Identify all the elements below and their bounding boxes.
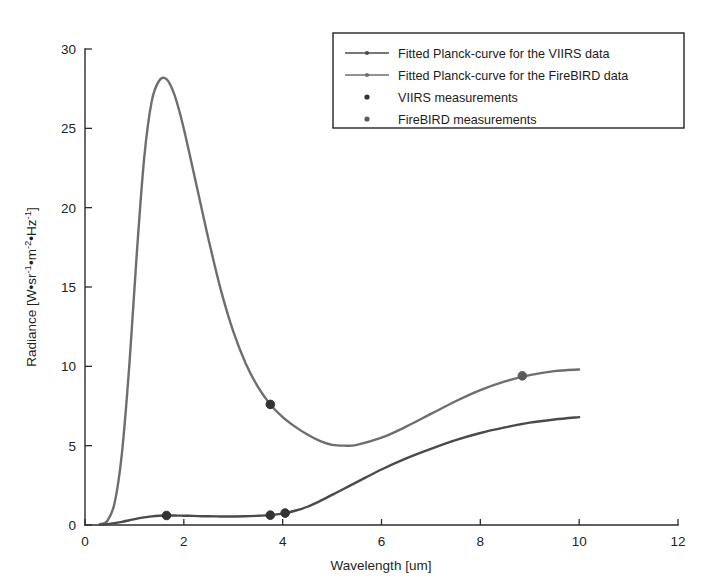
y-tick-label-5: 5 [68,439,76,454]
legend-line-dot-0 [365,51,369,55]
figure-container: 024681012 051015202530 Wavelength [um] R… [0,0,716,588]
y-title-exp3: -1 [22,211,33,219]
y-tick-label-15: 15 [61,280,76,295]
y-axis-title: Radiance [W•sr-1•m-2•Hz-1] [22,207,39,367]
y-axis-ticks: 051015202530 [61,42,92,533]
y-title-suffix: ] [24,207,39,211]
x-tick-label-6: 6 [378,534,386,549]
x-tick-label-12: 12 [670,534,685,549]
measurement-point-0 [266,400,275,409]
radiance-wavelength-chart: 024681012 051015202530 Wavelength [um] R… [0,0,716,588]
x-tick-label-8: 8 [477,534,485,549]
y-title-exp1: -1 [22,265,33,273]
legend-dot-swatch-2 [364,94,369,99]
y-title-prefix: Radiance [W•sr [24,273,39,367]
y-tick-label-30: 30 [61,42,76,57]
y-tick-label-20: 20 [61,201,76,216]
legend-label-1: Fitted Planck-curve for the FireBIRD dat… [398,69,628,83]
measurement-point-4 [281,509,290,518]
curve-firebird [100,78,579,524]
legend: Fitted Planck-curve for the VIIRS dataFi… [333,33,684,128]
x-axis-ticks: 024681012 [81,519,685,549]
measurement-point-2 [162,511,171,520]
y-title-mid1: •m [24,249,39,265]
y-tick-label-0: 0 [68,518,76,533]
x-axis-title: Wavelength [um] [331,558,432,573]
y-tick-label-10: 10 [61,359,76,374]
curve-viirs [100,417,579,525]
legend-label-3: FireBIRD measurements [398,113,537,127]
x-tick-label-10: 10 [572,534,587,549]
measurement-point-1 [518,372,527,381]
legend-label-2: VIIRS measurements [398,91,518,105]
legend-label-0: Fitted Planck-curve for the VIIRS data [398,47,609,61]
y-title-exp2: -2 [22,241,33,249]
x-tick-label-4: 4 [279,534,287,549]
legend-line-dot-1 [365,73,369,77]
legend-dot-swatch-3 [364,116,369,121]
svg-text:Radiance [W•sr-1•m-2•Hz-1]: Radiance [W•sr-1•m-2•Hz-1] [22,207,39,367]
x-tick-label-2: 2 [180,534,188,549]
x-tick-label-0: 0 [81,534,89,549]
y-title-mid2: •Hz [24,219,39,240]
data-curves [100,78,579,525]
measurement-point-3 [266,511,275,520]
y-tick-label-25: 25 [61,121,76,136]
